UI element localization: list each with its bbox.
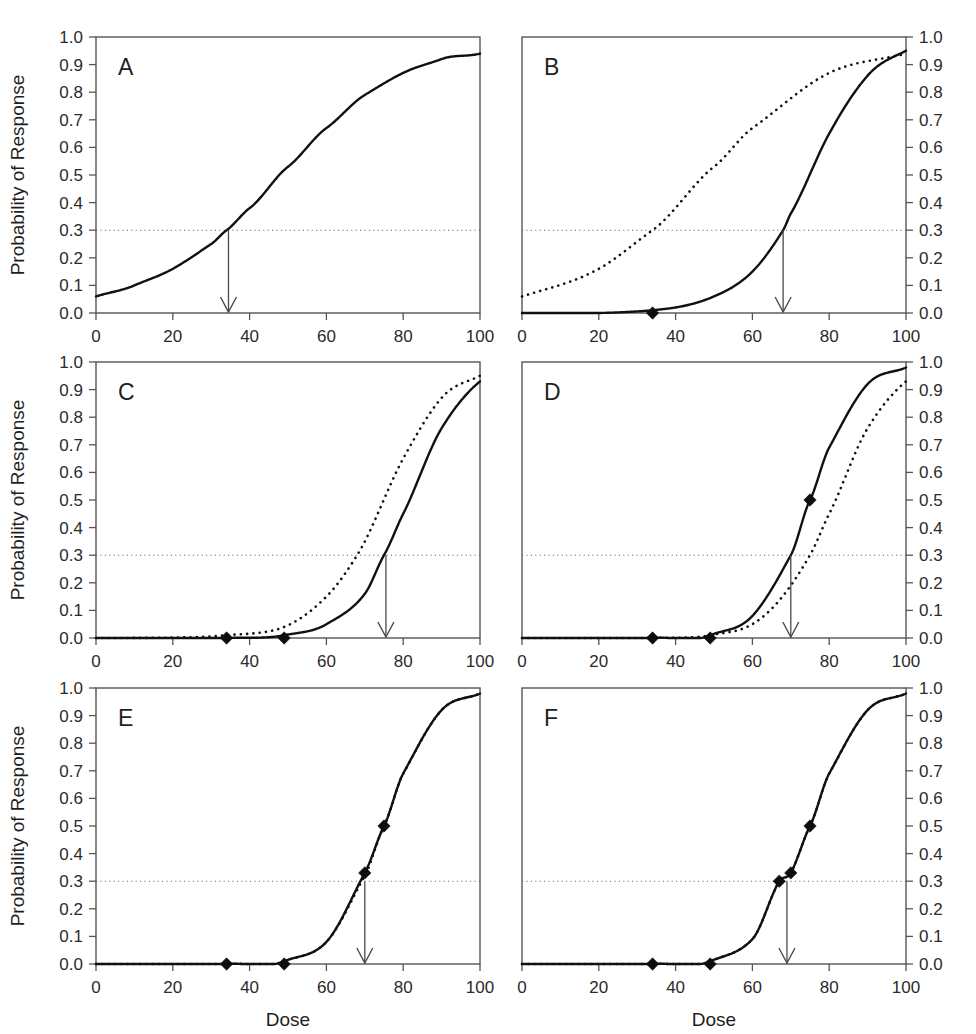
dose-marker xyxy=(804,820,816,832)
y-axis-title: Probability of Response xyxy=(7,75,28,276)
y-tick-label: 0.8 xyxy=(919,734,943,753)
x-tick-label: 60 xyxy=(743,978,762,997)
y-tick-label: 0.5 xyxy=(59,166,83,185)
figure-root: 0204060801000.00.10.20.30.40.50.60.70.80… xyxy=(0,0,976,1034)
y-tick-label: 1.0 xyxy=(59,28,83,47)
y-tick-label: 0.2 xyxy=(919,574,943,593)
y-tick-label: 0.1 xyxy=(59,601,83,620)
y-tick-label: 0.2 xyxy=(59,249,83,268)
y-tick-label: 0.8 xyxy=(59,83,83,102)
prior-curve xyxy=(522,694,906,964)
y-tick-label: 0.1 xyxy=(59,276,83,295)
response-curve xyxy=(522,51,906,313)
response-curve xyxy=(522,694,906,964)
x-tick-label: 0 xyxy=(91,978,100,997)
y-tick-label: 0.5 xyxy=(919,491,943,510)
x-tick-label: 80 xyxy=(820,978,839,997)
y-tick-label: 0.9 xyxy=(59,381,83,400)
prior-curve xyxy=(522,54,906,297)
y-tick-label: 0.1 xyxy=(919,276,943,295)
y-tick-label: 0.3 xyxy=(59,872,83,891)
y-tick-label: 0.6 xyxy=(919,789,943,808)
y-tick-label: 0.7 xyxy=(919,111,943,130)
x-tick-label: 60 xyxy=(317,978,336,997)
y-tick-label: 0.9 xyxy=(919,707,943,726)
plot-frame xyxy=(522,37,906,313)
dose-marker xyxy=(804,494,816,506)
y-tick-label: 0.4 xyxy=(919,845,943,864)
y-tick-label: 0.0 xyxy=(59,304,83,323)
panel-d: 0204060801000.00.10.20.30.40.50.60.70.80… xyxy=(426,338,976,708)
plot-frame xyxy=(522,688,906,964)
y-axis-title: Probability of Response xyxy=(7,400,28,601)
x-tick-label: 20 xyxy=(589,978,608,997)
y-tick-label: 1.0 xyxy=(59,353,83,372)
y-tick-label: 0.5 xyxy=(919,817,943,836)
panel-letter: B xyxy=(544,54,559,80)
x-tick-label: 40 xyxy=(666,978,685,997)
y-tick-label: 0.7 xyxy=(59,762,83,781)
y-tick-label: 0.5 xyxy=(59,491,83,510)
panel-b: 0204060801000.00.10.20.30.40.50.60.70.80… xyxy=(426,13,976,383)
y-tick-label: 0.6 xyxy=(59,463,83,482)
y-tick-label: 0.9 xyxy=(919,381,943,400)
response-curve xyxy=(96,381,480,638)
y-tick-label: 0.6 xyxy=(59,789,83,808)
plot-frame xyxy=(96,37,480,313)
dose-marker xyxy=(220,958,232,970)
y-tick-label: 1.0 xyxy=(59,679,83,698)
y-tick-label: 0.9 xyxy=(59,707,83,726)
y-tick-label: 0.6 xyxy=(919,138,943,157)
y-tick-label: 0.0 xyxy=(919,629,943,648)
y-tick-label: 0.3 xyxy=(59,221,83,240)
y-tick-label: 0.3 xyxy=(919,221,943,240)
x-tick-label: 80 xyxy=(394,978,413,997)
y-tick-label: 0.8 xyxy=(59,734,83,753)
x-axis-title: Dose xyxy=(266,1009,310,1030)
panel-letter: A xyxy=(118,54,134,80)
y-tick-label: 0.3 xyxy=(59,546,83,565)
y-tick-label: 0.4 xyxy=(59,519,83,538)
y-tick-label: 0.8 xyxy=(59,408,83,427)
y-tick-label: 1.0 xyxy=(919,679,943,698)
y-tick-label: 1.0 xyxy=(919,28,943,47)
prior-curve xyxy=(96,376,480,638)
response-curve xyxy=(522,368,906,638)
y-tick-label: 0.2 xyxy=(919,900,943,919)
response-curve xyxy=(96,54,480,297)
panel-letter: F xyxy=(544,705,558,731)
y-tick-label: 0.3 xyxy=(919,546,943,565)
y-tick-label: 0.0 xyxy=(919,304,943,323)
y-tick-label: 0.4 xyxy=(919,194,943,213)
panel-letter: C xyxy=(118,379,135,405)
y-tick-label: 0.7 xyxy=(919,762,943,781)
y-tick-label: 0.7 xyxy=(919,436,943,455)
x-axis-title: Dose xyxy=(692,1009,736,1030)
dose-marker xyxy=(646,632,658,644)
y-tick-label: 0.4 xyxy=(59,194,83,213)
x-tick-label: 40 xyxy=(240,978,259,997)
x-tick-label: 100 xyxy=(892,978,920,997)
y-tick-label: 0.4 xyxy=(919,519,943,538)
y-tick-label: 0.5 xyxy=(59,817,83,836)
dose-marker xyxy=(378,820,390,832)
y-tick-label: 0.4 xyxy=(59,845,83,864)
dose-marker xyxy=(220,632,232,644)
dose-marker xyxy=(646,958,658,970)
y-tick-label: 0.2 xyxy=(919,249,943,268)
response-curve xyxy=(96,694,480,964)
x-tick-label: 20 xyxy=(163,978,182,997)
plot-frame xyxy=(96,688,480,964)
y-tick-label: 0.9 xyxy=(919,56,943,75)
y-tick-label: 0.1 xyxy=(919,601,943,620)
y-tick-label: 0.0 xyxy=(59,629,83,648)
x-tick-label: 0 xyxy=(517,978,526,997)
y-tick-label: 0.2 xyxy=(59,900,83,919)
plot-frame xyxy=(96,362,480,638)
plot-frame xyxy=(522,362,906,638)
y-axis-title: Probability of Response xyxy=(7,726,28,927)
y-tick-label: 0.2 xyxy=(59,574,83,593)
y-tick-label: 0.8 xyxy=(919,408,943,427)
y-tick-label: 0.6 xyxy=(919,463,943,482)
panel-f: 0204060801000.00.10.20.30.40.50.60.70.80… xyxy=(426,664,976,1034)
